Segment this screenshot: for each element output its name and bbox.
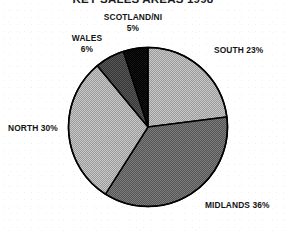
slice-label-scotland-ni-name: SCOTLAND/NI	[90, 12, 176, 23]
pie-chart	[67, 46, 229, 208]
pie-chart-figure: KEY SALES AREAS 1998	[0, 0, 286, 234]
slice-label-wales: WALES 6%	[56, 33, 118, 55]
chart-title: KEY SALES AREAS 1998	[0, 0, 286, 5]
slice-label-wales-name: WALES	[56, 33, 118, 44]
slice-label-south: SOUTH 23%	[214, 45, 263, 56]
slice-label-wales-value: 6%	[56, 44, 118, 55]
pie-slice-south	[148, 48, 227, 128]
slice-label-north: NORTH 30%	[8, 123, 58, 134]
slice-label-scotland-ni: SCOTLAND/NI 5%	[90, 12, 176, 34]
pie-svg	[67, 46, 229, 208]
slice-label-midlands: MIDLANDS 36%	[205, 200, 270, 211]
